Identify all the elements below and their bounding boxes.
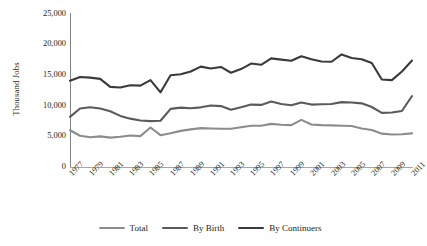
legend-line-swatch-icon	[162, 227, 188, 229]
legend-item-total[interactable]: Total	[99, 224, 148, 233]
legend-line-swatch-icon	[99, 227, 125, 229]
series-lines	[70, 14, 412, 167]
y-axis-tick-label: 20,000	[20, 40, 66, 48]
legend-item-label: By Birth	[193, 224, 224, 233]
y-axis-tick-label: 0	[20, 163, 66, 171]
plot-area	[70, 14, 412, 167]
legend-item-by-continuers[interactable]: By Continuers	[238, 224, 321, 233]
y-axis-tick-label: 5,000	[20, 132, 66, 140]
y-axis-tick-label: 10,000	[20, 102, 66, 110]
series-line-by-birth	[70, 96, 412, 121]
y-axis-tick-labels: 05,00010,00015,00020,00025,000	[18, 0, 66, 246]
series-line-by-continuers	[70, 54, 412, 92]
x-axis-tick-labels: 1977197919811983198519871989199119931995…	[70, 168, 413, 208]
x-axis-tick-label: 2011	[410, 161, 427, 178]
legend-line-swatch-icon	[238, 227, 264, 229]
legend-item-by-birth[interactable]: By Birth	[162, 224, 224, 233]
y-axis-tick-label: 15,000	[20, 71, 66, 79]
series-line-total	[70, 120, 412, 138]
chart-legend: TotalBy BirthBy Continuers	[0, 220, 420, 236]
legend-item-label: Total	[130, 224, 148, 233]
legend-item-label: By Continuers	[269, 224, 321, 233]
y-axis-tick-label: 25,000	[20, 10, 66, 18]
